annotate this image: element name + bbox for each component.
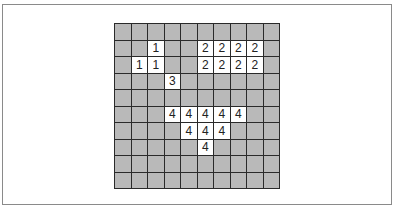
empty-cell <box>198 24 214 40</box>
empty-cell <box>247 173 263 189</box>
empty-cell <box>115 107 131 123</box>
empty-cell <box>165 156 181 172</box>
empty-cell <box>181 24 197 40</box>
empty-cell <box>181 74 197 90</box>
empty-cell <box>198 173 214 189</box>
empty-cell <box>165 123 181 139</box>
empty-cell <box>247 24 263 40</box>
empty-cell <box>132 41 148 57</box>
empty-cell <box>198 74 214 90</box>
empty-cell <box>264 24 280 40</box>
labeled-cell: 1 <box>148 57 164 73</box>
empty-cell <box>181 156 197 172</box>
labeled-cell: 2 <box>231 57 247 73</box>
empty-cell <box>264 74 280 90</box>
empty-cell <box>231 90 247 106</box>
labeled-cell: 4 <box>214 107 230 123</box>
empty-cell <box>264 156 280 172</box>
labeled-cell: 4 <box>198 140 214 156</box>
labeled-cell: 1 <box>132 57 148 73</box>
labeled-cell: 4 <box>181 107 197 123</box>
empty-cell <box>181 140 197 156</box>
empty-cell <box>115 41 131 57</box>
labeled-cell: 2 <box>247 41 263 57</box>
empty-cell <box>148 123 164 139</box>
empty-cell <box>132 90 148 106</box>
labeled-cell: 2 <box>198 41 214 57</box>
empty-cell <box>132 24 148 40</box>
empty-cell <box>115 173 131 189</box>
labeled-cell: 2 <box>198 57 214 73</box>
empty-cell <box>247 90 263 106</box>
empty-cell <box>115 57 131 73</box>
empty-cell <box>231 123 247 139</box>
empty-cell <box>264 90 280 106</box>
empty-cell <box>132 173 148 189</box>
empty-cell <box>148 107 164 123</box>
empty-cell <box>247 140 263 156</box>
empty-cell <box>165 173 181 189</box>
labeled-cell: 4 <box>181 123 197 139</box>
empty-cell <box>115 74 131 90</box>
empty-cell <box>214 156 230 172</box>
empty-cell <box>115 156 131 172</box>
empty-cell <box>181 41 197 57</box>
empty-cell <box>132 74 148 90</box>
empty-cell <box>231 24 247 40</box>
labeled-cell: 3 <box>165 74 181 90</box>
empty-cell <box>247 156 263 172</box>
empty-cell <box>264 140 280 156</box>
labeled-cell: 2 <box>214 57 230 73</box>
empty-cell <box>148 156 164 172</box>
empty-cell <box>181 57 197 73</box>
empty-cell <box>132 140 148 156</box>
empty-cell <box>247 123 263 139</box>
empty-cell <box>148 173 164 189</box>
empty-cell <box>148 90 164 106</box>
empty-cell <box>214 90 230 106</box>
empty-cell <box>165 41 181 57</box>
empty-cell <box>148 74 164 90</box>
empty-cell <box>132 123 148 139</box>
empty-cell <box>165 24 181 40</box>
empty-cell <box>264 123 280 139</box>
empty-cell <box>231 156 247 172</box>
empty-cell <box>247 74 263 90</box>
empty-cell <box>264 173 280 189</box>
empty-cell <box>132 107 148 123</box>
empty-cell <box>231 74 247 90</box>
labeled-cell: 2 <box>214 41 230 57</box>
empty-cell <box>181 173 197 189</box>
empty-cell <box>264 41 280 57</box>
empty-cell <box>214 74 230 90</box>
labeled-cell: 2 <box>247 57 263 73</box>
empty-cell <box>214 140 230 156</box>
empty-cell <box>264 57 280 73</box>
empty-cell <box>148 140 164 156</box>
empty-cell <box>115 140 131 156</box>
labeled-cell: 4 <box>165 107 181 123</box>
empty-cell <box>214 173 230 189</box>
empty-cell <box>247 107 263 123</box>
labeled-grid: 122221122223444444444 <box>114 23 280 189</box>
empty-cell <box>264 107 280 123</box>
labeled-cell: 1 <box>148 41 164 57</box>
labeled-cell: 4 <box>198 123 214 139</box>
empty-cell <box>115 123 131 139</box>
empty-cell <box>165 90 181 106</box>
empty-cell <box>115 24 131 40</box>
empty-cell <box>214 24 230 40</box>
empty-cell <box>165 57 181 73</box>
empty-cell <box>115 90 131 106</box>
empty-cell <box>231 140 247 156</box>
empty-cell <box>181 90 197 106</box>
labeled-cell: 4 <box>198 107 214 123</box>
labeled-cell: 4 <box>214 123 230 139</box>
empty-cell <box>132 156 148 172</box>
empty-cell <box>198 90 214 106</box>
labeled-cell: 4 <box>231 107 247 123</box>
labeled-cell: 2 <box>231 41 247 57</box>
empty-cell <box>165 140 181 156</box>
empty-cell <box>148 24 164 40</box>
empty-cell <box>231 173 247 189</box>
